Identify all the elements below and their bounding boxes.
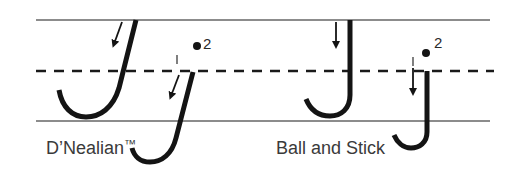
dnealian-uppercase-j (59, 20, 136, 117)
dnealian-step2-number: 2 (203, 36, 211, 51)
ballstick-uppercase-j-stroke (306, 20, 350, 116)
ballstick-lowercase-j-dot (422, 49, 430, 57)
ballstick-lowercase-j-stroke (394, 71, 427, 148)
dnealian-uppercase-j-direction-arrow-icon (114, 22, 122, 44)
dnealian-uppercase-j-stroke (59, 20, 136, 117)
ballstick-uppercase-j (306, 20, 350, 116)
ballstick-label-text: Ball and Stick (276, 138, 385, 158)
dnealian-label-text: D’Nealian (46, 138, 124, 158)
trademark-symbol: ™ (124, 137, 136, 151)
dnealian-lowercase-j-stroke (132, 72, 193, 162)
ballstick-lowercase-j (394, 49, 430, 148)
ballstick-step2-number: 2 (434, 35, 442, 50)
dnealian-lowercase-j (132, 42, 201, 162)
dnealian-label: D’Nealian™ (46, 139, 136, 157)
handwriting-diagram: 2 2 D’Nealian™ Ball and Stick (0, 0, 517, 175)
dnealian-lowercase-j-dot (193, 42, 201, 50)
ballstick-label: Ball and Stick (276, 139, 385, 157)
dnealian-lowercase-j-direction-arrow-icon (171, 75, 179, 96)
